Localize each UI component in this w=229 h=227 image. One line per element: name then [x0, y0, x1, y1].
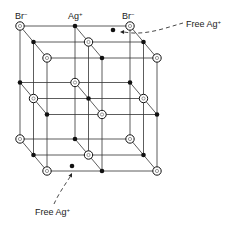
ion-label-2: Br−	[122, 11, 135, 22]
br-ion-icon	[16, 22, 24, 30]
free-ag-label-0: Free Ag+	[186, 19, 222, 30]
free-ag-ion-icon	[111, 28, 116, 33]
dashed-arrow-line	[54, 177, 70, 204]
ag-ion-icon	[155, 112, 160, 117]
br-ion-icon	[98, 110, 106, 118]
br-ion-icon	[43, 54, 51, 62]
arrowhead-icon	[68, 173, 72, 177]
ion-labels: Br−Ag+Br−	[15, 11, 135, 22]
free-ag-ion-icon	[70, 164, 75, 169]
ag-ion-icon	[100, 169, 105, 174]
br-ion-icon	[29, 94, 37, 102]
ag-ion-icon	[141, 40, 146, 45]
agbr-lattice-diagram: Br−Ag+Br− Free Ag+Free Ag+	[0, 0, 229, 227]
ag-ion-icon	[31, 153, 36, 158]
br-ion-icon	[139, 94, 147, 102]
ag-ion-icon	[73, 137, 78, 142]
ag-ion-icon	[128, 80, 133, 85]
arrowhead-icon	[120, 30, 124, 34]
ion-label-0: Br−	[15, 11, 28, 22]
br-ion-icon	[126, 135, 134, 143]
ion-label-1: Ag+	[68, 11, 83, 22]
ag-ion-icon	[100, 56, 105, 61]
br-ion-icon	[16, 135, 24, 143]
ag-ion-icon	[45, 112, 50, 117]
ag-ion-icon	[86, 96, 91, 101]
ag-ion-icon	[141, 153, 146, 158]
br-ion-icon	[43, 167, 51, 175]
br-ion-icon	[84, 151, 92, 159]
lattice-ions	[16, 22, 161, 175]
ag-ion-icon	[31, 40, 36, 45]
free-ag-label-1: Free Ag+	[35, 207, 71, 218]
br-ion-icon	[153, 167, 161, 175]
br-ion-icon	[84, 38, 92, 46]
br-ion-icon	[71, 78, 79, 86]
br-ion-icon	[126, 22, 134, 30]
br-ion-icon	[153, 54, 161, 62]
ag-ion-icon	[18, 80, 23, 85]
ag-ion-icon	[73, 24, 78, 29]
free-ag-annotations: Free Ag+Free Ag+	[35, 19, 222, 218]
